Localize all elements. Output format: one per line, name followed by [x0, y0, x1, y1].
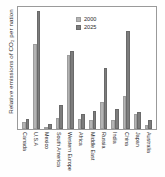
- x-tick-label: Middle East: [90, 132, 96, 160]
- x-tick-cell: Australia: [144, 132, 155, 177]
- bar-group: [143, 7, 154, 129]
- x-tick-label: Japan: [135, 132, 141, 147]
- bar-chart: Relative emissions of CO₂ per nation 200…: [0, 0, 165, 177]
- bar-2025: [81, 114, 85, 129]
- bar-group: [65, 7, 76, 129]
- x-tick-label: Russia: [101, 132, 107, 148]
- x-tick-cell: China: [121, 132, 132, 177]
- x-tick-cell: Western Europe: [64, 132, 75, 177]
- x-tick-label: China: [124, 132, 130, 146]
- bar-group: [31, 7, 42, 129]
- bar-group: [132, 7, 143, 129]
- bar-2025: [126, 31, 130, 129]
- bar-2025: [59, 105, 63, 129]
- bar-2025: [70, 51, 74, 129]
- bar-2025: [93, 111, 97, 129]
- bar-group: [42, 7, 53, 129]
- x-tick-cell: South America: [53, 132, 64, 177]
- legend-label-2025: 2025: [84, 24, 96, 30]
- bar-2025: [48, 124, 52, 129]
- x-tick-cell: India: [110, 132, 121, 177]
- bar-2025: [148, 120, 152, 129]
- x-tick-cell: Russia: [98, 132, 109, 177]
- legend-label-2000: 2000: [84, 16, 96, 22]
- x-tick-label: Canada: [22, 132, 28, 151]
- legend-item-2000: 2000: [76, 16, 96, 22]
- bar-2025: [37, 11, 41, 129]
- x-tick-label: Mexico: [44, 132, 50, 149]
- x-tick-label: Australia: [146, 132, 152, 153]
- x-tick-cell: Africa: [76, 132, 87, 177]
- bar-2025: [26, 119, 30, 129]
- bar-group: [109, 7, 120, 129]
- x-tick-cell: Japan: [132, 132, 143, 177]
- legend-swatch-2025: [76, 25, 81, 30]
- bar-group: [98, 7, 109, 129]
- y-axis-label: Relative emissions of CO₂ per nation: [7, 0, 14, 124]
- chart-legend: 2000 2025: [76, 16, 96, 30]
- x-tick-label: Africa: [78, 132, 84, 146]
- bar-group: [121, 7, 132, 129]
- bar-2025: [104, 68, 108, 129]
- plot-area: 2000 2025: [17, 6, 157, 130]
- legend-item-2025: 2025: [76, 24, 96, 30]
- x-tick-label: Western Europe: [67, 132, 73, 171]
- x-tick-cell: Canada: [19, 132, 30, 177]
- legend-swatch-2000: [76, 17, 81, 22]
- x-tick-cell: Middle East: [87, 132, 98, 177]
- x-tick-label: South America: [56, 132, 62, 167]
- x-tick-cell: U.S.A: [30, 132, 41, 177]
- bar-2025: [115, 109, 119, 129]
- x-tick-label: India: [112, 132, 118, 144]
- bar-2025: [137, 112, 141, 129]
- x-tick-label: U.S.A: [33, 132, 39, 146]
- x-tick-cell: Mexico: [42, 132, 53, 177]
- x-axis-tick-labels: CanadaU.S.AMexicoSouth AmericaWestern Eu…: [17, 132, 157, 177]
- bar-group: [54, 7, 65, 129]
- bar-group: [20, 7, 31, 129]
